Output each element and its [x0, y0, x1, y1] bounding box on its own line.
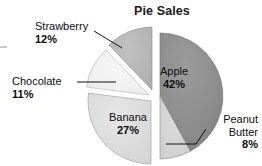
slice-label-banana: Banana 27%	[103, 111, 153, 136]
slice-label-peanut-butter: Peanut Butter 8%	[196, 113, 258, 151]
slice-label-apple: Apple 42%	[150, 65, 198, 90]
slice-label-banana-name: Banana	[103, 111, 153, 124]
chart-title: Pie Sales	[112, 4, 212, 18]
slice-label-peanut-butter-percent: 8%	[196, 138, 258, 151]
slice-label-chocolate: Chocolate 11%	[12, 75, 62, 100]
slice-label-strawberry-percent: 12%	[35, 33, 88, 46]
slice-label-apple-percent: 42%	[150, 78, 198, 91]
slice-label-chocolate-percent: 11%	[12, 88, 62, 101]
slice-label-chocolate-name: Chocolate	[12, 75, 62, 88]
slice-label-peanut-butter-name-line2: Butter	[196, 126, 258, 139]
slice-label-banana-percent: 27%	[103, 124, 153, 137]
pie-chart: Pie Sales Strawberry 12% Chocolate 11% A…	[0, 0, 262, 166]
slice-label-apple-name: Apple	[150, 65, 198, 78]
slice-label-strawberry-name: Strawberry	[35, 20, 88, 33]
slice-label-peanut-butter-name-line1: Peanut	[196, 113, 258, 126]
slice-label-strawberry: Strawberry 12%	[35, 20, 88, 45]
